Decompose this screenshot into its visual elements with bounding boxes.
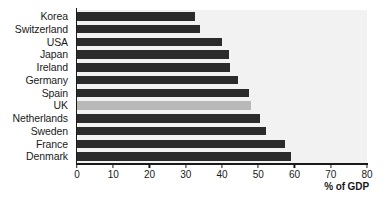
tick-label: 30: [180, 169, 191, 180]
category-label: Korea: [0, 10, 72, 23]
tick-label: 80: [361, 169, 372, 180]
plot-area: [77, 10, 367, 163]
bar: [77, 89, 249, 98]
bar: [77, 38, 222, 47]
bar-row: [77, 87, 367, 100]
x-axis-title: % of GDP: [0, 181, 369, 192]
bar-row: [77, 61, 367, 74]
bar: [77, 76, 238, 85]
tick-label: 40: [216, 169, 227, 180]
tick-mark: [185, 164, 186, 168]
tick-mark: [258, 164, 259, 168]
category-axis: KoreaSwitzerlandUSAJapanIrelandGermanySp…: [0, 10, 72, 163]
category-label: Denmark: [0, 150, 72, 163]
x-axis-tick: 10: [108, 164, 119, 180]
tick-mark: [330, 164, 331, 168]
category-label: Ireland: [0, 61, 72, 74]
category-label: Germany: [0, 74, 72, 87]
bar: [77, 114, 260, 123]
bar-row: [77, 74, 367, 87]
tick-mark: [76, 164, 77, 168]
bar-row: [77, 10, 367, 23]
bar-row: [77, 23, 367, 36]
x-axis-tick: 70: [325, 164, 336, 180]
bar-row: [77, 150, 367, 163]
bar-row: [77, 112, 367, 125]
bar-chart: KoreaSwitzerlandUSAJapanIrelandGermanySp…: [0, 0, 389, 201]
category-label: Netherlands: [0, 112, 72, 125]
x-axis-tick: 0: [74, 164, 80, 180]
y-axis-line: [76, 8, 77, 165]
tick-mark: [366, 164, 367, 168]
bars-layer: [77, 10, 367, 163]
bar-row: [77, 125, 367, 138]
bar: [77, 25, 200, 34]
tick-label: 50: [253, 169, 264, 180]
category-label: Spain: [0, 87, 72, 100]
category-label: France: [0, 138, 72, 151]
bar: [77, 101, 251, 110]
x-axis-tick: 50: [253, 164, 264, 180]
bar: [77, 140, 285, 149]
x-axis-tick: 80: [361, 164, 372, 180]
tick-label: 70: [325, 169, 336, 180]
bar: [77, 127, 266, 136]
category-label: USA: [0, 36, 72, 49]
tick-mark: [294, 164, 295, 168]
category-label: UK: [0, 99, 72, 112]
tick-mark: [113, 164, 114, 168]
category-label: Switzerland: [0, 23, 72, 36]
bar: [77, 63, 230, 72]
category-label: Sweden: [0, 125, 72, 138]
x-axis-tick: 60: [289, 164, 300, 180]
x-axis-tick: 20: [144, 164, 155, 180]
bar-row: [77, 138, 367, 151]
x-axis-tick: 40: [216, 164, 227, 180]
tick-label: 10: [108, 169, 119, 180]
bar: [77, 12, 195, 21]
bar-row: [77, 48, 367, 61]
tick-label: 0: [74, 169, 80, 180]
tick-mark: [149, 164, 150, 168]
x-axis-tick: 30: [180, 164, 191, 180]
bar-row: [77, 36, 367, 49]
tick-label: 20: [144, 169, 155, 180]
tick-label: 60: [289, 169, 300, 180]
bar: [77, 152, 291, 161]
tick-mark: [221, 164, 222, 168]
bar: [77, 50, 229, 59]
bar-row: [77, 99, 367, 112]
category-label: Japan: [0, 48, 72, 61]
